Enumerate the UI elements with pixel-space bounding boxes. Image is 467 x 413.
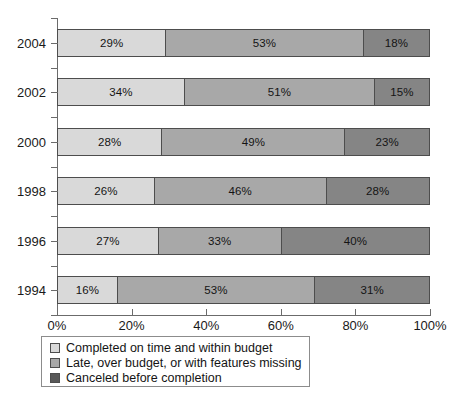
- x-axis-tick-label: 60%: [268, 318, 294, 333]
- bar-segment: 15%: [374, 78, 430, 106]
- bar-segment: 51%: [184, 78, 374, 106]
- bar-row: 26%46%28%: [57, 177, 430, 205]
- legend-item: Completed on time and within budget: [50, 341, 309, 355]
- bar-row: 34%51%15%: [57, 78, 430, 106]
- y-axis-tick-label: 1998: [0, 184, 46, 199]
- stacked-bar: 29%53%18%: [57, 29, 430, 57]
- x-axis-tick-label: 100%: [413, 318, 446, 333]
- bar-segment: 28%: [57, 128, 161, 156]
- x-tick-mark: [281, 309, 282, 316]
- stacked-bar: 16%53%31%: [57, 276, 430, 304]
- y-tick-mark: [51, 92, 58, 93]
- bar-segment: 16%: [57, 276, 117, 304]
- legend-item: Late, over budget, or with features miss…: [50, 356, 309, 370]
- bar-row: 27%33%40%: [57, 227, 430, 255]
- bar-segment: 40%: [281, 227, 430, 255]
- bar-segment: 33%: [158, 227, 281, 255]
- stacked-bar: 26%46%28%: [57, 177, 430, 205]
- bar-segment: 18%: [363, 29, 430, 57]
- x-tick-mark: [206, 309, 207, 316]
- bar-segment: 28%: [326, 177, 430, 205]
- legend-label: Completed on time and within budget: [66, 341, 272, 355]
- y-tick-mark: [51, 191, 58, 192]
- x-axis-tick-label: 0%: [48, 318, 67, 333]
- bar-segment: 29%: [57, 29, 165, 57]
- bar-segment: 34%: [57, 78, 184, 106]
- y-minor-tick-mark: [51, 266, 58, 267]
- y-axis-tick-label: 2004: [0, 35, 46, 50]
- y-axis-tick-label: 1996: [0, 233, 46, 248]
- y-minor-tick-mark: [51, 216, 58, 217]
- y-tick-mark: [51, 43, 58, 44]
- legend-swatch-icon: [50, 373, 60, 383]
- legend-swatch-icon: [50, 343, 60, 353]
- x-tick-mark: [132, 309, 133, 316]
- plot-area: 29%53%18%34%51%15%28%49%23%26%46%28%27%3…: [57, 18, 430, 315]
- x-tick-mark: [355, 309, 356, 316]
- stacked-bar: 34%51%15%: [57, 78, 430, 106]
- y-tick-mark: [51, 290, 58, 291]
- bar-segment: 26%: [57, 177, 154, 205]
- y-axis-tick-label: 1994: [0, 283, 46, 298]
- bar-segment: 46%: [154, 177, 326, 205]
- x-axis-line: [57, 315, 431, 316]
- x-tick-mark: [430, 309, 431, 316]
- y-tick-mark: [51, 142, 58, 143]
- bar-segment: 31%: [314, 276, 430, 304]
- y-axis-tick-label: 2002: [0, 85, 46, 100]
- stacked-bar: 28%49%23%: [57, 128, 430, 156]
- legend-swatch-icon: [50, 358, 60, 368]
- x-axis-tick-label: 20%: [119, 318, 145, 333]
- bar-row: 16%53%31%: [57, 276, 430, 304]
- legend-label: Canceled before completion: [66, 371, 222, 385]
- y-tick-mark: [51, 241, 58, 242]
- chart-legend: Completed on time and within budget Late…: [41, 336, 310, 387]
- stacked-bar: 27%33%40%: [57, 227, 430, 255]
- y-minor-tick-mark: [51, 117, 58, 118]
- x-axis-tick-label: 40%: [193, 318, 219, 333]
- legend-label: Late, over budget, or with features miss…: [66, 356, 302, 370]
- bar-segment: 27%: [57, 227, 158, 255]
- bar-segment: 49%: [161, 128, 344, 156]
- bar-segment: 53%: [165, 29, 363, 57]
- y-axis-tick-label: 2000: [0, 134, 46, 149]
- stacked-bar-chart: 29%53%18%34%51%15%28%49%23%26%46%28%27%3…: [0, 0, 467, 413]
- legend-item: Canceled before completion: [50, 371, 309, 385]
- x-axis-tick-label: 80%: [342, 318, 368, 333]
- y-minor-tick-mark: [51, 167, 58, 168]
- y-minor-tick-mark: [51, 18, 58, 19]
- y-minor-tick-mark: [51, 68, 58, 69]
- bar-row: 28%49%23%: [57, 128, 430, 156]
- x-tick-mark: [57, 309, 58, 316]
- bar-segment: 23%: [344, 128, 430, 156]
- bar-row: 29%53%18%: [57, 29, 430, 57]
- bar-segment: 53%: [117, 276, 315, 304]
